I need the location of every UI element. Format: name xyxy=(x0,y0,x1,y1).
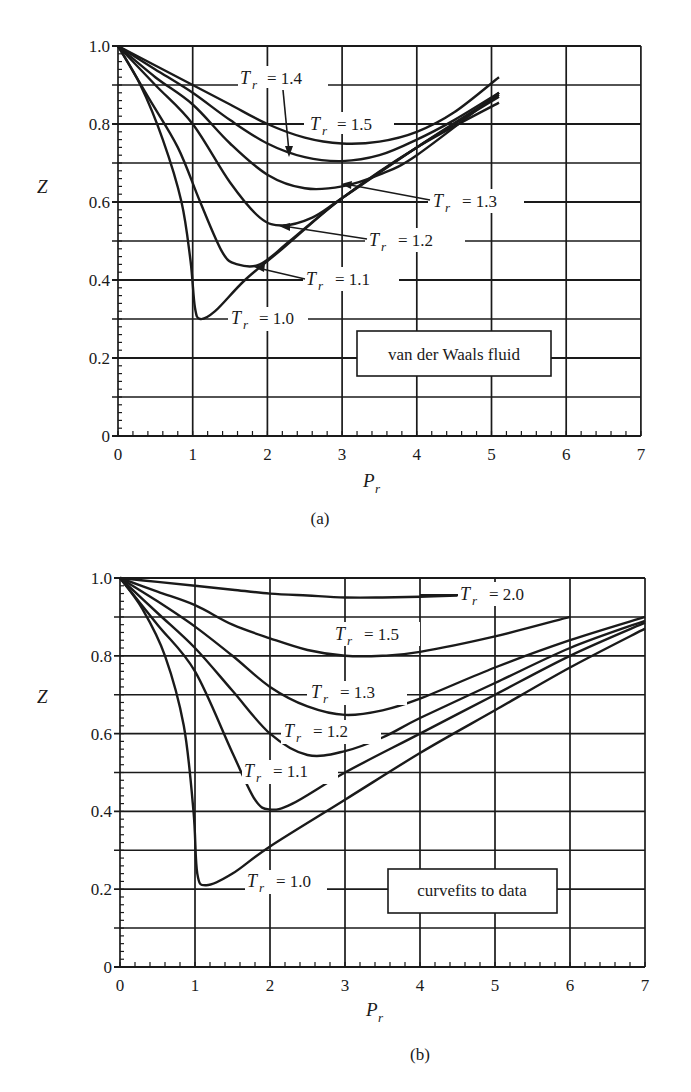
label-tr12-b: T r = 1.2 xyxy=(281,720,381,745)
x-tick-label: 3 xyxy=(338,445,347,464)
panel-caption-b: (b) xyxy=(410,1045,430,1064)
y-tick-label: 0.6 xyxy=(91,725,112,744)
label-tr15-b: T r = 1.5 xyxy=(332,622,420,648)
svg-text:curvefits to data: curvefits to data xyxy=(417,881,527,900)
y-tick-label: 0.8 xyxy=(89,115,110,134)
svg-text:r: r xyxy=(375,481,381,496)
x-tick-label: 5 xyxy=(487,445,496,464)
x-tick-label: 5 xyxy=(491,976,500,995)
chart-panel-b: 00.20.40.60.81.001234567 T r = 2.0 T r =… xyxy=(37,569,650,1064)
label-tr13-a: T r = 1.3 xyxy=(341,181,524,215)
y-axis-label-b: Z xyxy=(37,686,48,707)
svg-text:= 1.5: = 1.5 xyxy=(364,625,399,644)
svg-text:r: r xyxy=(378,1010,384,1025)
svg-text:P: P xyxy=(362,470,375,491)
svg-text:= 1.4: = 1.4 xyxy=(267,69,303,88)
figure: 00.20.40.60.81.001234567 T r = 1.4 T r =… xyxy=(0,0,691,1092)
chart-panel-a: 00.20.40.60.81.001234567 T r = 1.4 T r =… xyxy=(37,37,646,528)
label-tr20-b: T r = 2.0 xyxy=(420,582,540,608)
label-tr11-a: T r = 1.1 xyxy=(254,264,399,293)
x-tick-label: 2 xyxy=(266,976,275,995)
x-axis-label-a: P r xyxy=(362,470,381,496)
x-tick-label: 2 xyxy=(263,445,272,464)
x-tick-label: 3 xyxy=(341,976,350,995)
svg-text:= 1.3: = 1.3 xyxy=(462,192,497,211)
label-tr10-b: T r = 1.0 xyxy=(245,870,327,895)
y-tick-label: 0 xyxy=(102,427,111,446)
x-tick-label: 4 xyxy=(413,445,422,464)
y-tick-label: 0.2 xyxy=(91,880,112,899)
y-tick-label: 0.4 xyxy=(91,802,113,821)
x-tick-label: 7 xyxy=(637,445,646,464)
svg-text:= 1.2: = 1.2 xyxy=(313,722,348,741)
svg-text:= 1.1: = 1.1 xyxy=(273,762,308,781)
svg-text:van der Waals fluid: van der Waals fluid xyxy=(388,345,520,364)
label-tr14-a: T r = 1.4 xyxy=(238,66,328,157)
x-tick-label: 1 xyxy=(191,976,200,995)
y-tick-label: 0.4 xyxy=(89,271,111,290)
x-tick-label: 4 xyxy=(416,976,425,995)
curve-2.0 xyxy=(120,578,458,598)
curve-1.2 xyxy=(120,578,645,756)
y-tick-label: 0.8 xyxy=(91,647,112,666)
label-tr15-a: T r = 1.5 xyxy=(304,112,394,138)
svg-text:= 1.0: = 1.0 xyxy=(259,309,294,328)
svg-text:= 1.2: = 1.2 xyxy=(398,231,433,250)
label-tr13-b: T r = 1.3 xyxy=(307,681,407,706)
x-tick-label: 0 xyxy=(116,976,125,995)
y-tick-label: 1.0 xyxy=(91,569,112,588)
svg-text:P: P xyxy=(365,999,378,1020)
y-tick-label: 0.2 xyxy=(89,349,110,368)
x-tick-label: 7 xyxy=(641,976,650,995)
y-tick-label: 1.0 xyxy=(89,37,110,56)
svg-text:= 2.0: = 2.0 xyxy=(489,585,524,604)
y-tick-label: 0.6 xyxy=(89,193,110,212)
svg-text:= 1.5: = 1.5 xyxy=(337,115,372,134)
panel-caption-a: (a) xyxy=(311,509,330,528)
x-axis-label-b: P r xyxy=(365,999,384,1025)
x-tick-label: 6 xyxy=(566,976,575,995)
x-tick-label: 1 xyxy=(188,445,197,464)
annotation-box-a: van der Waals fluid xyxy=(357,331,551,376)
x-tick-label: 6 xyxy=(562,445,571,464)
y-axis-label-a: Z xyxy=(37,176,48,197)
x-tick-label: 0 xyxy=(114,445,123,464)
svg-text:= 1.3: = 1.3 xyxy=(340,683,375,702)
label-tr10-a: T r = 1.0 xyxy=(228,307,308,332)
svg-text:= 1.0: = 1.0 xyxy=(276,872,311,891)
y-tick-label: 0 xyxy=(104,958,113,977)
svg-text:= 1.1: = 1.1 xyxy=(335,270,370,289)
label-tr11-b: T r = 1.1 xyxy=(242,760,338,785)
annotation-box-b: curvefits to data xyxy=(388,869,557,913)
